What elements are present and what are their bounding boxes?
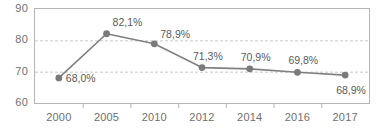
x-axis-tick-label: 2010 bbox=[131, 112, 177, 123]
data-point-marker bbox=[151, 40, 158, 47]
line-chart: 60708090 2000200520102012201420162017 68… bbox=[0, 0, 379, 132]
data-point-value-label: 78,9% bbox=[160, 29, 190, 40]
y-axis-tick-label: 60 bbox=[0, 97, 28, 108]
x-axis-tick-label: 2012 bbox=[179, 112, 225, 123]
data-point-marker bbox=[342, 72, 349, 79]
data-point-value-label: 68,9% bbox=[336, 85, 366, 96]
data-point-marker bbox=[199, 64, 206, 71]
data-point-value-label: 70,9% bbox=[241, 52, 271, 63]
data-point-marker bbox=[246, 65, 253, 72]
data-point-value-label: 71,3% bbox=[193, 51, 223, 62]
x-axis-tick-label: 2000 bbox=[36, 112, 82, 123]
data-point-value-label: 68,0% bbox=[66, 73, 96, 84]
y-axis-tick-label: 90 bbox=[0, 3, 28, 14]
y-axis-tick-label: 80 bbox=[0, 34, 28, 45]
y-axis-tick-label: 70 bbox=[0, 66, 28, 77]
data-point-marker bbox=[103, 30, 110, 37]
x-axis-tick-label: 2016 bbox=[274, 112, 320, 123]
data-point-marker bbox=[294, 69, 301, 76]
x-axis-tick-label: 2017 bbox=[322, 112, 368, 123]
data-point-value-label: 82,1% bbox=[113, 17, 143, 28]
x-axis-tick-label: 2005 bbox=[84, 112, 130, 123]
data-point-value-label: 69,8% bbox=[288, 55, 318, 66]
x-axis-tick-label: 2014 bbox=[227, 112, 273, 123]
data-point-marker bbox=[55, 75, 62, 82]
